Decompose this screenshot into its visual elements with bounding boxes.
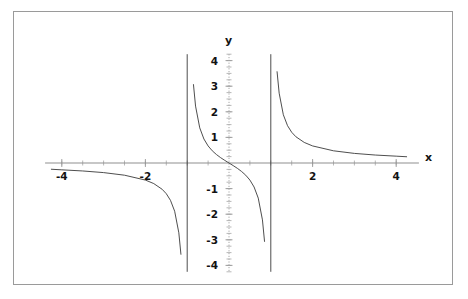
y-tick-label: -2 — [206, 208, 218, 220]
curve-right-branch — [277, 72, 407, 157]
y-tick-label: 3 — [211, 80, 218, 92]
y-axis-label: y — [225, 34, 232, 47]
x-tick-label: -4 — [56, 170, 68, 182]
x-tick-label: -2 — [140, 170, 152, 182]
x-axis-label: x — [425, 151, 432, 164]
y-tick-label: 4 — [211, 55, 218, 67]
y-tick-label: -4 — [206, 259, 218, 271]
x-tick-label: 4 — [393, 170, 400, 182]
chart-figure: x y -4-224 4321-1-2-3-4 — [13, 11, 453, 285]
x-tick-label: 2 — [309, 170, 316, 182]
y-tick-label: -1 — [206, 183, 218, 195]
y-tick-label: 2 — [211, 106, 218, 118]
y-tick-label: 1 — [211, 131, 218, 143]
curve-left-branch — [51, 169, 181, 254]
y-tick-label: -3 — [206, 234, 218, 246]
function-plot-svg — [14, 12, 454, 286]
